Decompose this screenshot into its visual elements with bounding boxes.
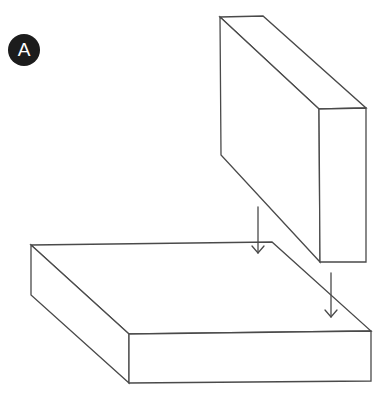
base-slab <box>31 242 371 383</box>
base-slab-front-face <box>129 331 371 383</box>
upright-block-front-face <box>319 108 366 262</box>
upright-block <box>220 16 366 262</box>
diagram-canvas: A <box>0 0 392 400</box>
diagram-drawing <box>0 0 392 400</box>
